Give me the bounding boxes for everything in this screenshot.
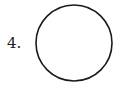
circle-shape — [36, 5, 112, 81]
circle-figure — [0, 0, 117, 89]
